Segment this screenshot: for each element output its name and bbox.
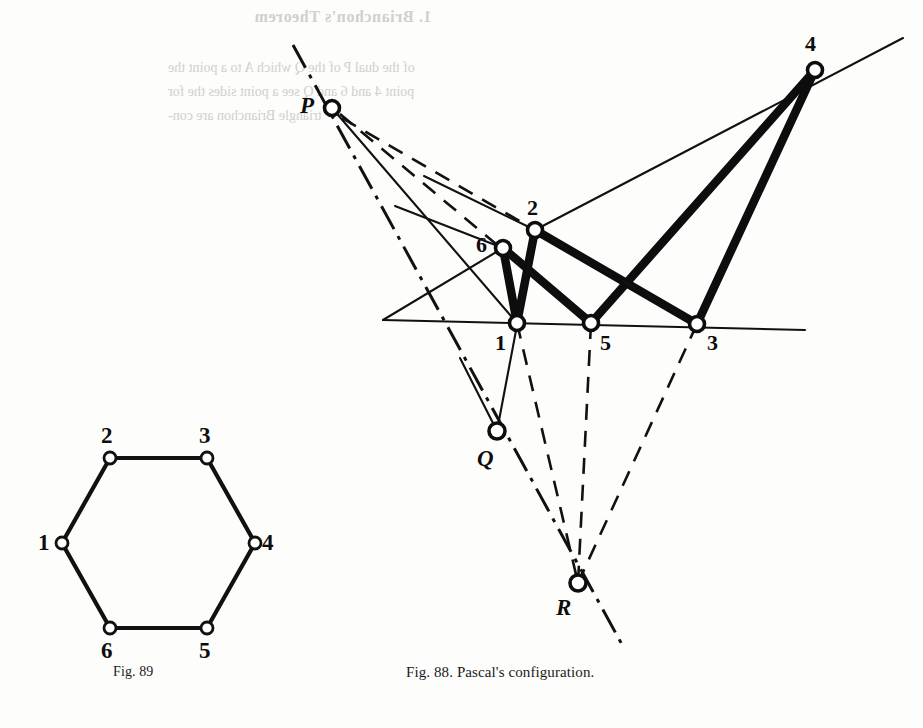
line-Q-upleft-stub	[460, 358, 497, 431]
line-2-4-extended	[535, 38, 903, 230]
point-2-node	[528, 223, 543, 238]
point-P-node	[325, 101, 340, 116]
hex-side-3-4	[697, 70, 815, 324]
point-label-4: 4	[805, 33, 816, 55]
point-label-3: 3	[707, 332, 718, 354]
hex-vertex-2-node	[104, 452, 116, 464]
figure-caption-89: Fig. 89	[113, 664, 153, 680]
point-label-5: 5	[600, 332, 611, 354]
point-label-6: 6	[476, 234, 487, 256]
dashed-line-1-R	[517, 323, 578, 583]
point-label-P: P	[300, 94, 314, 117]
hex-label-2: 2	[101, 424, 113, 447]
point-label-R: R	[556, 596, 571, 619]
hex-label-4: 4	[262, 531, 274, 554]
hex-label-6: 6	[101, 639, 113, 662]
point-Q-node	[489, 423, 505, 439]
point-4-node	[808, 63, 823, 78]
figure-caption-88: Fig. 88. Pascal's configuration.	[406, 664, 594, 681]
hex-vertex-6-node	[104, 622, 116, 634]
page-root: 1. Brianchon's Theorem of the dual P of …	[0, 0, 923, 728]
hex-vertex-3-node	[201, 452, 213, 464]
hexagon-outline	[62, 458, 255, 628]
point-R-node	[570, 575, 586, 591]
fig-89-group	[56, 452, 261, 634]
hex-label-1: 1	[38, 531, 50, 554]
dashed-line-3-R	[578, 324, 697, 583]
point-label-2: 2	[527, 197, 538, 219]
line-6-to-baseline-vertex	[383, 248, 503, 320]
line-2-extended-upleft	[424, 176, 535, 230]
hex-label-5: 5	[199, 639, 211, 662]
point-1-node	[510, 316, 525, 331]
pascal-line-P-Q-R	[293, 45, 625, 650]
hex-vertex-5-node	[201, 622, 213, 634]
point-5-node	[584, 316, 599, 331]
line-P-to-1	[332, 108, 517, 323]
figures-canvas: .thin { stroke: #111; stroke-width: 2.1;…	[0, 0, 923, 728]
dashed-line-P-5	[340, 114, 591, 323]
hex-side-4-5	[591, 70, 815, 323]
point-label-Q: Q	[477, 447, 494, 470]
point-label-1: 1	[495, 332, 506, 354]
point-6-node	[496, 241, 511, 256]
hex-vertex-4-node	[249, 537, 261, 549]
point-3-node	[690, 317, 705, 332]
hex-label-3: 3	[199, 424, 211, 447]
fig-88-group	[293, 38, 903, 650]
hex-vertex-1-node	[56, 537, 68, 549]
dashed-line-5-R	[578, 323, 591, 583]
